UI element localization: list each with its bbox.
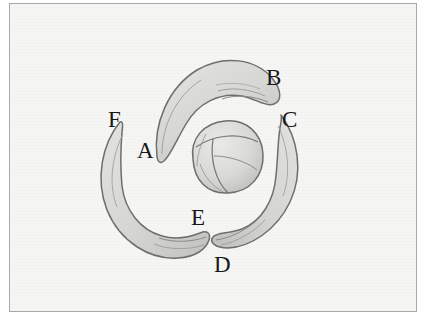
figure-plate: A B C D E F xyxy=(9,3,417,312)
label-E: E xyxy=(191,206,206,229)
label-C: C xyxy=(282,108,298,131)
center-bud-shape xyxy=(193,121,263,193)
label-D: D xyxy=(214,253,231,276)
label-B: B xyxy=(266,66,282,89)
label-A: A xyxy=(137,139,154,162)
left-claw-shape xyxy=(101,122,209,258)
drawing-canvas xyxy=(10,4,416,311)
left-claw-outline xyxy=(101,122,209,258)
label-F: F xyxy=(108,108,121,131)
figure-frame: A B C D E F xyxy=(0,0,426,318)
